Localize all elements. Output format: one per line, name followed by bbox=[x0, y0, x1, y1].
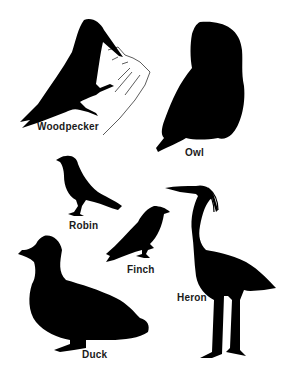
heron-silhouette bbox=[165, 185, 276, 358]
bird-silhouettes-illustration: Woodpecker Owl Robin Finch Duck Heron bbox=[0, 0, 291, 377]
robin-silhouette bbox=[56, 156, 122, 216]
robin-label: Robin bbox=[69, 220, 98, 231]
finch-label: Finch bbox=[127, 264, 155, 275]
finch-silhouette bbox=[106, 206, 170, 262]
silhouettes-svg bbox=[0, 0, 291, 377]
duck-label: Duck bbox=[82, 349, 107, 360]
heron-label: Heron bbox=[177, 292, 207, 303]
woodpecker-silhouette bbox=[20, 19, 123, 128]
woodpecker-label: Woodpecker bbox=[37, 121, 99, 132]
owl-label: Owl bbox=[185, 147, 204, 158]
tree-trunk-outline bbox=[103, 47, 150, 135]
owl-silhouette bbox=[156, 22, 244, 152]
